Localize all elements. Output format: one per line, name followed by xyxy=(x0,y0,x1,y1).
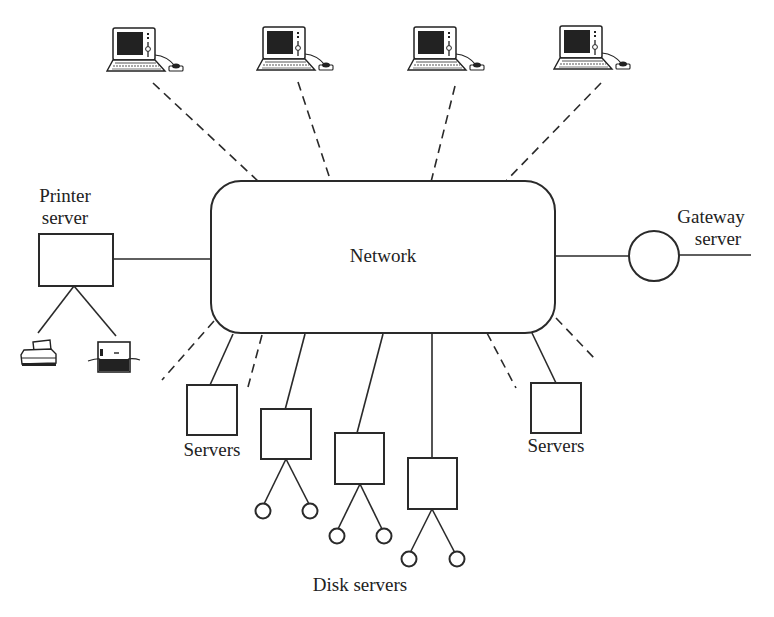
disk-server-3 xyxy=(402,333,465,567)
server-right xyxy=(531,333,581,433)
gateway-server-label-line1: Gateway xyxy=(670,206,752,227)
dot-matrix-printer-icon xyxy=(21,340,56,366)
printer-server-label-line1: Printer xyxy=(30,185,100,206)
workstation-2-icon xyxy=(257,27,333,70)
disk-servers-label: Disk servers xyxy=(300,574,420,595)
server-left xyxy=(187,334,237,435)
workstation-4-icon xyxy=(554,26,630,69)
network-diagram: Network Printer server Gateway server Se… xyxy=(0,0,774,617)
network-label: Network xyxy=(338,245,428,266)
disk-server-2 xyxy=(330,334,392,544)
workstation-links xyxy=(153,82,601,182)
printer-server xyxy=(38,234,211,336)
printer-server-label-line2: server xyxy=(30,207,100,228)
workstation-3-icon xyxy=(408,27,484,70)
disk-server-1 xyxy=(256,334,318,519)
gateway-server-label-line2: server xyxy=(683,228,753,249)
servers-left-label: Servers xyxy=(174,439,250,460)
servers-right-label: Servers xyxy=(518,435,594,456)
laser-printer-icon xyxy=(88,342,140,372)
diagram-canvas xyxy=(0,0,774,617)
workstation-1-icon xyxy=(107,28,183,71)
